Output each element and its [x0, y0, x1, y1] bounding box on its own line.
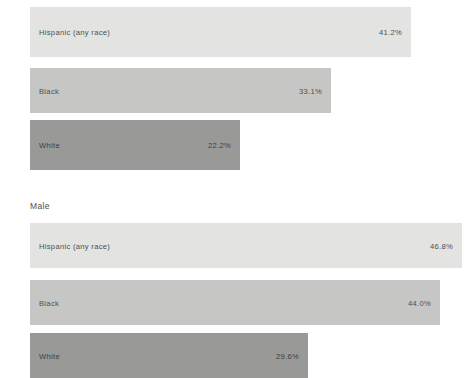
bar-value: 33.1% [299, 86, 322, 95]
bar-white: White 22.2% [30, 120, 240, 170]
bar-black: Black 33.1% [30, 68, 331, 113]
bar-label: White [39, 351, 60, 360]
bar-black: Black 44.0% [30, 280, 440, 325]
bar-row: Black 33.1% [30, 68, 331, 113]
bar-value: 44.0% [408, 298, 431, 307]
panel-title-male: Male [30, 201, 50, 211]
bar-value: 29.6% [276, 351, 299, 360]
bar-white: White 29.6% [30, 333, 308, 378]
bar-row: Hispanic (any race) 46.8% [30, 223, 462, 268]
bar-label: Black [39, 298, 59, 307]
chart-panel-male: Male Hispanic (any race) 46.8% Black 44.… [0, 185, 467, 365]
bar-row: White 22.2% [30, 120, 240, 170]
bar-row: Black 44.0% [30, 280, 440, 325]
bar-label: Hispanic (any race) [39, 28, 110, 37]
bar-value: 22.2% [208, 141, 231, 150]
bar-row: Hispanic (any race) 41.2% [30, 7, 411, 57]
bar-label: White [39, 141, 60, 150]
bar-value: 46.8% [430, 241, 453, 250]
bar-label: Black [39, 86, 59, 95]
chart-panel-female: Hispanic (any race) 41.2% Black 33.1% Wh… [0, 0, 467, 180]
bar-hispanic: Hispanic (any race) 46.8% [30, 223, 462, 268]
bar-row: White 29.6% [30, 333, 308, 378]
bar-hispanic: Hispanic (any race) 41.2% [30, 7, 411, 57]
bar-value: 41.2% [379, 28, 402, 37]
bar-label: Hispanic (any race) [39, 241, 110, 250]
